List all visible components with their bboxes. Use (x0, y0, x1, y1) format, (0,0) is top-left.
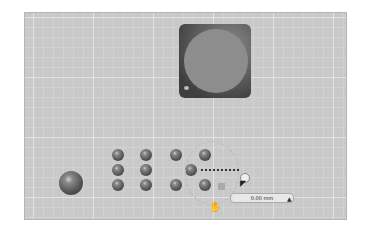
small-sphere[interactable] (140, 179, 152, 191)
panel-glint (184, 86, 189, 90)
cursor-icon: ◤ (240, 179, 246, 188)
large-sphere[interactable] (59, 171, 83, 195)
plane-handle[interactable] (218, 183, 225, 190)
small-sphere[interactable] (170, 149, 182, 161)
small-sphere[interactable] (112, 149, 124, 161)
small-sphere[interactable] (140, 164, 152, 176)
small-sphere[interactable] (112, 164, 124, 176)
small-sphere[interactable] (170, 179, 182, 191)
small-sphere[interactable] (112, 179, 124, 191)
move-axis[interactable] (201, 169, 239, 171)
small-sphere[interactable] (140, 149, 152, 161)
dimension-label[interactable]: 0.00 mm (230, 193, 294, 203)
panel-disc (184, 29, 248, 93)
lock-icon[interactable]: ▲ (287, 195, 292, 202)
screen-panel[interactable] (179, 24, 251, 98)
3d-viewport[interactable]: ◤ ✋ 0.00 mm ▲ (24, 12, 347, 220)
move-icon[interactable]: ✋ (209, 201, 221, 212)
